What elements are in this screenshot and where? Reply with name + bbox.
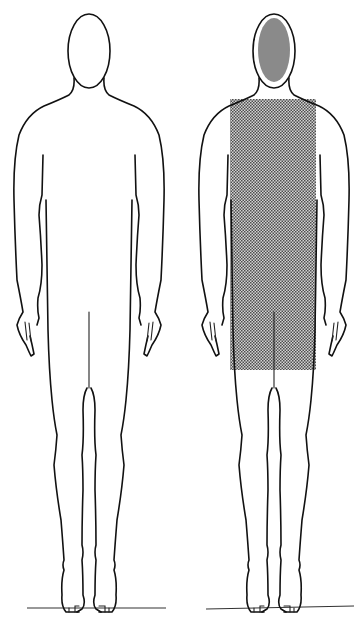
- figure-right: [199, 14, 349, 612]
- diagram-canvas: [0, 0, 359, 639]
- head-shaded-region: [258, 18, 290, 82]
- torso-shaded-region: [230, 99, 316, 370]
- figure-left: [14, 14, 164, 612]
- figures-svg: [0, 0, 359, 639]
